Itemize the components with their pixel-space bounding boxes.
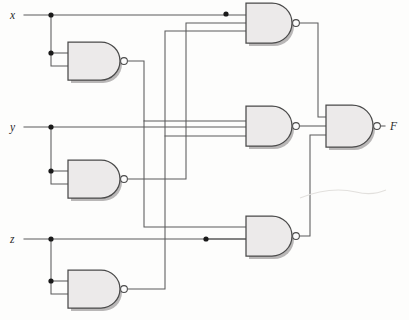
- gate-nand-top-term: [246, 3, 299, 46]
- junction-z-to-gate6: [203, 236, 208, 241]
- junction-z-rail: [48, 236, 53, 241]
- junction-x-branch: [48, 50, 53, 55]
- gate-nand-bottom-term: [246, 216, 299, 259]
- junction-x-to-gate4: [223, 11, 228, 16]
- gate-nand-y-inverter: [68, 160, 127, 201]
- input-label-x: x: [9, 9, 16, 21]
- net-y-inverted: [128, 23, 246, 179]
- scan-artifact: [300, 190, 386, 198]
- net-t3: [298, 135, 326, 236]
- junction-y-branch: [48, 168, 53, 173]
- net-t1: [298, 23, 326, 117]
- logic-circuit-figure: x y z F: [0, 0, 409, 320]
- circuit-canvas: x y z F: [0, 0, 409, 320]
- net-z-inverted: [128, 31, 246, 289]
- net-x-inverted: [128, 61, 246, 227]
- junction-y-rail: [48, 124, 53, 129]
- input-rail-z: [24, 239, 246, 294]
- gate-nand-middle-term: [246, 106, 299, 149]
- output-label-F: F: [389, 120, 398, 132]
- junction-x-rail-top: [48, 12, 53, 17]
- gate-nand-output: [326, 105, 380, 150]
- gate-nand-x-inverter: [68, 42, 127, 83]
- gate-nand-z-inverter: [68, 270, 127, 311]
- input-label-y: y: [9, 121, 16, 134]
- junction-z-branch: [48, 278, 53, 283]
- input-label-z: z: [9, 233, 15, 245]
